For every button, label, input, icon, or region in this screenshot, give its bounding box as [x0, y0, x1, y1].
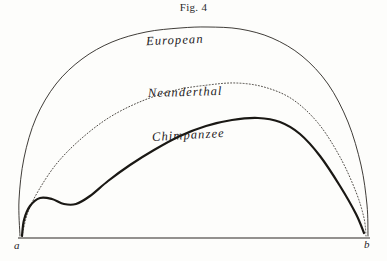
axis-endpoint-label-b: b: [364, 238, 370, 250]
figure-container: Fig. 4 European Neanderthal Chimpanzee a…: [0, 0, 387, 261]
curve-label-european: European: [146, 32, 204, 49]
axis-endpoint-label-a: a: [14, 239, 20, 251]
curve-label-neanderthal: Neanderthal: [148, 84, 223, 101]
curve-neanderthal: [22, 83, 366, 236]
